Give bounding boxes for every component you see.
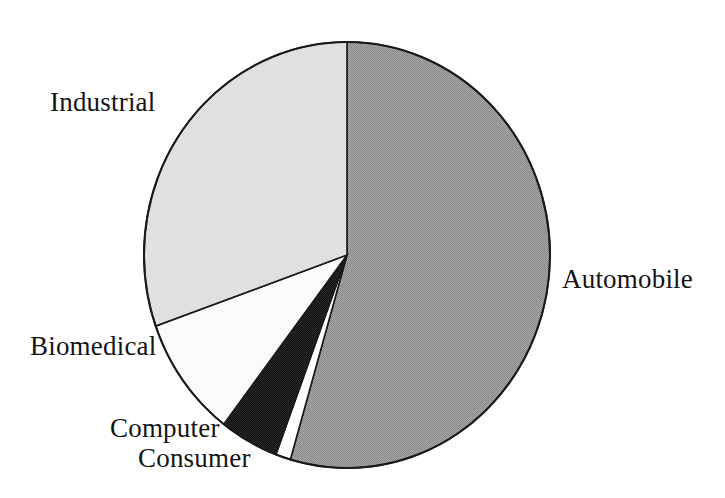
- slice-label-computer: Computer: [110, 414, 220, 443]
- pie-chart-figure: Industrial Automobile Biomedical Compute…: [0, 0, 725, 498]
- pie-slices-group: [144, 42, 550, 468]
- slice-label-biomedical: Biomedical: [30, 332, 156, 361]
- slice-label-industrial: Industrial: [50, 88, 155, 117]
- slice-label-automobile: Automobile: [562, 265, 693, 294]
- slice-label-consumer: Consumer: [138, 444, 251, 473]
- pie-chart-svg: [0, 0, 725, 498]
